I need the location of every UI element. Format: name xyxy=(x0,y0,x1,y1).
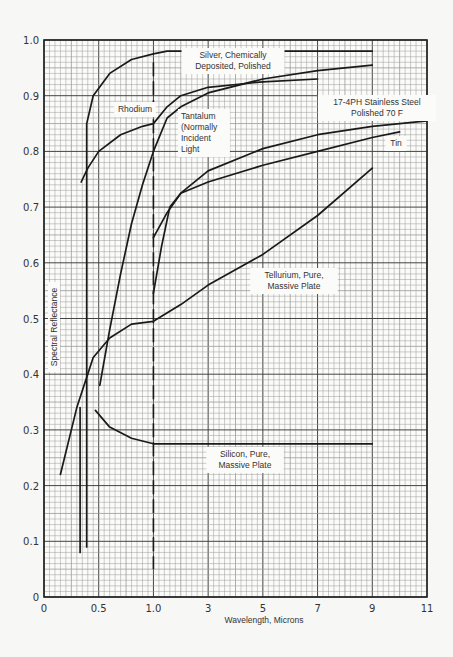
y-tick-label: 0.7 xyxy=(23,202,39,213)
y-tick-label: 0.3 xyxy=(23,425,39,436)
curve-label: 17-4PH Stainless Steel xyxy=(333,97,421,107)
y-tick-label: 0.9 xyxy=(23,91,39,102)
x-tick-label: 11 xyxy=(421,603,434,614)
curve-label: Polished 70 F xyxy=(351,108,403,118)
x-tick-label: 7 xyxy=(314,603,320,614)
y-tick-label: 0.6 xyxy=(23,258,39,269)
curve-label: Silicon, Pure, xyxy=(220,449,270,459)
y-tick-label: 0.2 xyxy=(23,481,39,492)
curve-label: Rhodium xyxy=(118,104,152,114)
curve-label: Deposited, Polished xyxy=(195,61,271,71)
y-tick-label: 0.5 xyxy=(23,314,39,325)
x-tick-label: 9 xyxy=(369,603,375,614)
x-axis-title: Wavelength, Microns xyxy=(224,615,303,625)
curve-label: (Normally xyxy=(181,122,218,132)
y-axis-title: Spectral Reflectance xyxy=(49,288,59,367)
curve-label: Incident xyxy=(181,133,211,143)
y-tick-label: 0 xyxy=(33,592,39,603)
curve-label: Tantalum xyxy=(181,111,216,121)
y-tick-label: 1.0 xyxy=(23,35,39,46)
x-tick-label: 0 xyxy=(41,603,47,614)
curve-label: Massive Plate xyxy=(219,460,272,470)
curve-label: Tin xyxy=(390,138,402,148)
x-tick-label: 5 xyxy=(260,603,266,614)
grid xyxy=(44,40,427,597)
y-tick-label: 0.8 xyxy=(23,146,39,157)
y-tick-label: 0.1 xyxy=(23,536,39,547)
x-tick-label: 3 xyxy=(205,603,211,614)
x-tick-label: 0.5 xyxy=(91,603,107,614)
y-tick-label: 0.4 xyxy=(23,369,39,380)
x-tick-label: 1.0 xyxy=(145,603,161,614)
reflectance-chart: Silver, ChemicallyDeposited, PolishedRho… xyxy=(0,0,453,657)
curve-label: Light xyxy=(181,144,200,154)
curve-label: Silver, Chemically xyxy=(199,50,267,60)
curve-label: Massive Plate xyxy=(268,281,321,291)
curve-label: Tellurium, Pure, xyxy=(264,270,323,280)
